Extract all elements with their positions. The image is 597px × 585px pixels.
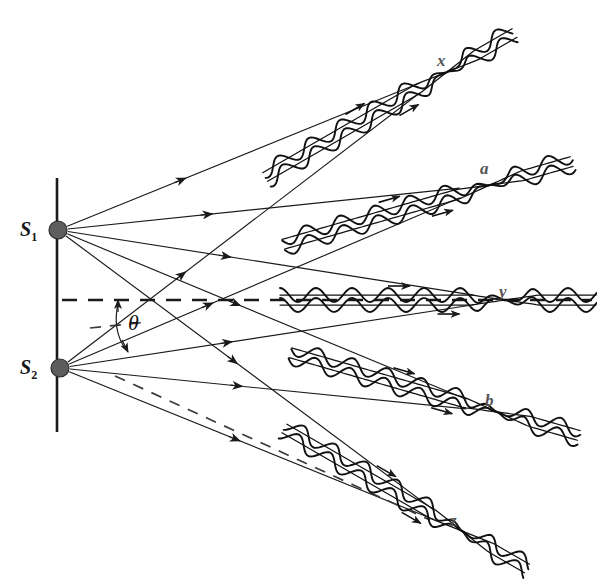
convergence-label-b: b — [485, 392, 494, 409]
beam-x-wave-lower — [266, 29, 513, 177]
beam-z-wave-lower — [284, 425, 529, 569]
beam-b-wave-lower — [291, 348, 580, 436]
ray-s1-arrow-0 — [175, 178, 186, 183]
beam-a-guide-upper — [285, 166, 573, 249]
ray-s2-arrow-4 — [229, 436, 240, 441]
source-dot-s2 — [51, 359, 69, 377]
ray-s1-arrow-1 — [201, 214, 213, 215]
figure-canvas — [0, 0, 597, 585]
source-dot-s1 — [49, 221, 67, 239]
wave-beams — [263, 29, 597, 578]
beam-b-wave-upper — [289, 358, 578, 446]
source-index: 1 — [31, 230, 37, 244]
ray-s1-arrow-4 — [228, 356, 238, 363]
ray-s2-arrow-2 — [220, 342, 232, 344]
source-index: 2 — [31, 368, 37, 382]
beam-b-guide-lower — [292, 348, 580, 431]
ray-s2-arrow-3 — [230, 385, 242, 386]
beam-a-guide-lower — [282, 157, 570, 240]
beam-x-direction-arrow-0 — [345, 103, 364, 114]
beam-z-direction-arrow-1 — [402, 512, 421, 523]
source-label-s2: S2 — [20, 357, 37, 381]
source-letter: S — [20, 356, 31, 378]
ray-s1-arrow-2 — [219, 255, 231, 257]
angle-arc-theta — [116, 300, 128, 352]
angle-label-theta: θ — [128, 312, 139, 334]
convergence-label-z: z — [450, 512, 457, 529]
beam-a-direction-arrow-0 — [379, 196, 400, 202]
ray-s1-2 — [68, 232, 474, 296]
ray-s1-0 — [67, 83, 420, 226]
beam-b-guide-upper — [289, 358, 577, 441]
beam-b-direction-arrow-1 — [431, 408, 452, 414]
convergence-label-x: x — [437, 52, 446, 69]
source-letter: S — [20, 218, 31, 240]
ray-s2-arrow-0 — [176, 272, 186, 279]
ray-s2-arrow-1 — [202, 303, 213, 308]
convergence-label-a: a — [480, 160, 489, 177]
interference-figure: S1 S2 θ x a y b z — [0, 0, 597, 585]
source-label-s1: S1 — [20, 219, 37, 243]
ray-s1-arrow-3 — [229, 301, 240, 306]
convergence-label-y: y — [499, 283, 507, 300]
